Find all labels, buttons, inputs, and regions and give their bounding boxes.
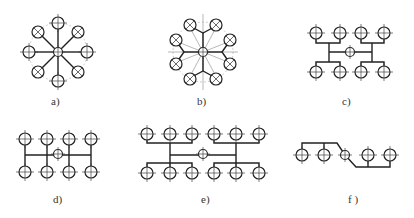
panel-label-c: c): [342, 95, 351, 107]
panel-a: [20, 14, 96, 90]
panel-f: [293, 143, 399, 167]
panel-label-a: a): [51, 95, 60, 107]
panel-c: [307, 24, 393, 81]
panel-d: [16, 130, 100, 181]
panel-label-b: b): [197, 95, 206, 107]
panel-e: [138, 125, 268, 182]
panel-label-e: e): [201, 193, 210, 205]
panel-b: [168, 14, 238, 90]
panel-label-d: d): [53, 193, 62, 205]
panel-label-f: f ): [348, 193, 358, 205]
layout-diagrams: [0, 0, 414, 218]
